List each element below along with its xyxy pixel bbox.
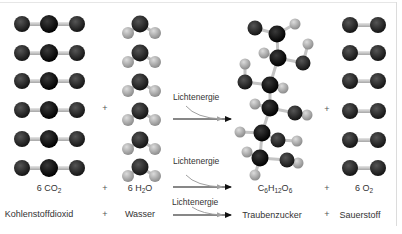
o2-molecule — [342, 132, 386, 148]
h2o-molecule — [122, 74, 161, 98]
formula-tail: O — [145, 183, 152, 193]
o2-molecule — [342, 160, 386, 176]
formula-coef: 6 — [37, 183, 45, 193]
h2o-molecule — [122, 159, 161, 183]
reaction-arrow-models — [173, 106, 231, 119]
plus-sign-models-1: + — [102, 104, 107, 113]
h2o-molecule — [122, 45, 161, 69]
o2-molecule — [342, 17, 386, 33]
co2-molecules — [14, 15, 85, 177]
formula-coef: 6 — [355, 183, 363, 193]
o2-molecule — [342, 73, 386, 89]
formula-sub: 12 — [274, 187, 281, 194]
co2-molecule — [14, 101, 85, 119]
o2-molecule — [342, 103, 386, 119]
o2-molecules — [342, 17, 386, 176]
energy-label-formula: Lichtenergie — [173, 157, 219, 166]
formula-co2: 6 CO2 — [37, 184, 62, 193]
formula-sub: 6 — [289, 187, 293, 194]
formula-sub: 2 — [369, 187, 373, 194]
energy-label-models: Lichtenergie — [173, 93, 219, 102]
word-o2: Sauerstoff — [340, 211, 381, 220]
formula-part: O — [282, 183, 289, 193]
h2o-molecules — [122, 16, 161, 183]
formula-h2o: 6 H2O — [128, 184, 153, 193]
plus-sign-words-1: + — [102, 210, 107, 219]
photosynthesis-diagram: Lichtenergie + + 6 CO2 + 6 H2O Lichtener… — [0, 0, 402, 234]
h2o-molecule — [122, 16, 161, 40]
energy-label-words: Lichtenergie — [172, 198, 218, 207]
formula-glucose: C6H12O6 — [258, 184, 293, 193]
word-co2: Kohlenstoffdioxid — [5, 210, 73, 219]
h2o-molecule — [122, 103, 161, 127]
formula-coef: 6 — [128, 183, 136, 193]
co2-molecule — [14, 15, 85, 33]
formula-base: CO — [44, 183, 58, 193]
word-h2o: Wasser — [125, 210, 155, 219]
plus-sign-words-2: + — [324, 210, 329, 219]
formula-o2: 6 O2 — [355, 184, 373, 193]
plus-sign-formula-2: + — [324, 184, 329, 193]
co2-molecule — [14, 159, 85, 177]
plus-sign-models-2: + — [324, 105, 329, 114]
formula-base: O — [362, 183, 369, 193]
co2-molecule — [14, 130, 85, 148]
glucose-molecule — [235, 19, 314, 181]
formula-sub: 2 — [58, 187, 62, 194]
h2o-molecule — [122, 132, 161, 156]
reaction-arrow-words — [173, 207, 231, 215]
hydrogen-atoms — [235, 19, 314, 181]
o2-molecule — [342, 45, 386, 61]
co2-molecule — [14, 72, 85, 90]
reaction-arrow-formula — [173, 175, 231, 187]
plus-sign-formula-1: + — [102, 184, 107, 193]
co2-molecule — [14, 44, 85, 62]
word-glucose: Traubenzucker — [242, 211, 302, 220]
